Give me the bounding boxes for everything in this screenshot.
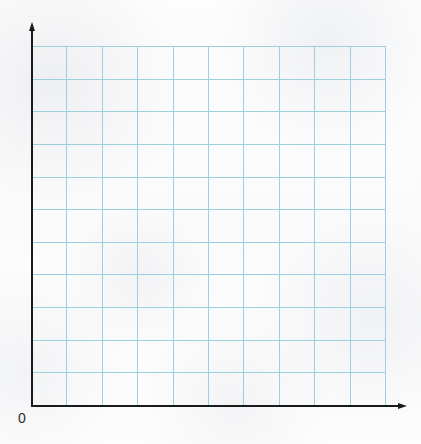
plot-area[interactable]: [31, 46, 385, 405]
grid-line-vertical: [243, 46, 244, 405]
grid-line-vertical: [350, 46, 351, 405]
grid-line-vertical: [314, 46, 315, 405]
grid-line-vertical: [173, 46, 174, 405]
x-axis-line: [31, 405, 400, 407]
arrow-up-icon: [29, 22, 35, 31]
grid-line-vertical: [102, 46, 103, 405]
grid-line-horizontal: [31, 79, 385, 80]
grid-line-horizontal: [31, 340, 385, 341]
grid-line-vertical: [279, 46, 280, 405]
grid-line-vertical: [208, 46, 209, 405]
y-axis-line: [31, 30, 33, 406]
grid-line-vertical: [66, 46, 67, 405]
grid-line-horizontal: [31, 144, 385, 145]
grid-line-horizontal: [31, 372, 385, 373]
arrow-right-icon: [398, 403, 407, 409]
origin-label: 0: [18, 411, 26, 425]
grid-line-horizontal: [31, 209, 385, 210]
grid-line-horizontal: [31, 177, 385, 178]
grid-line-vertical: [385, 46, 386, 405]
grid-line-horizontal: [31, 274, 385, 275]
grid-line-horizontal: [31, 307, 385, 308]
grid-line-vertical: [137, 46, 138, 405]
grid-line-horizontal: [31, 46, 385, 47]
grid-line-horizontal: [31, 111, 385, 112]
grid-line-horizontal: [31, 242, 385, 243]
